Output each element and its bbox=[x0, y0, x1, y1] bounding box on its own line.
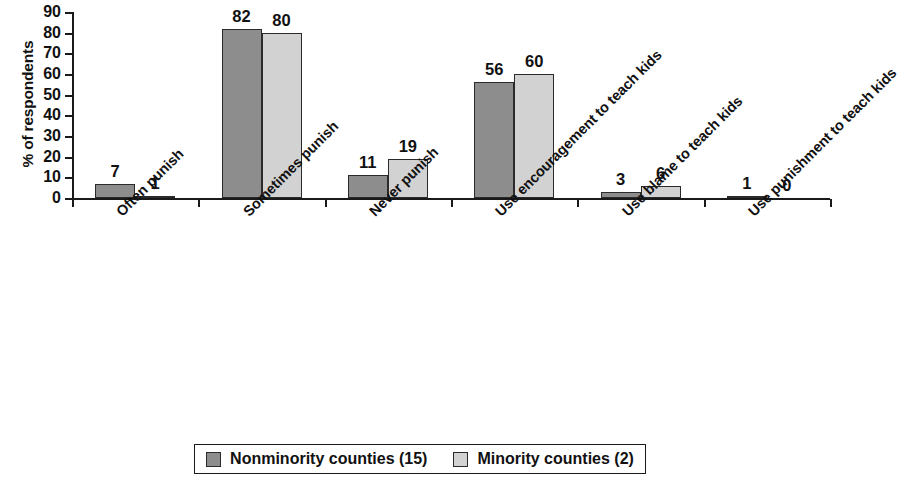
plot-area: 0102030405060708090 718280111956603610 bbox=[72, 12, 830, 198]
y-axis-tick bbox=[65, 177, 72, 179]
legend-swatch-icon bbox=[206, 452, 221, 467]
y-axis-tick bbox=[65, 12, 72, 14]
x-axis-tick bbox=[451, 199, 453, 207]
x-axis-tick bbox=[704, 199, 706, 207]
x-axis-tick bbox=[198, 199, 200, 207]
y-tick-label: 90 bbox=[43, 4, 61, 20]
bar-value-label: 7 bbox=[111, 163, 120, 180]
y-axis-tick bbox=[65, 115, 72, 117]
y-tick-label: 20 bbox=[43, 149, 61, 165]
y-tick-label: 30 bbox=[43, 128, 61, 144]
legend-swatch-icon bbox=[453, 452, 468, 467]
y-axis-tick bbox=[65, 198, 72, 200]
bar-value-label: 3 bbox=[616, 171, 625, 188]
legend-item: Minority counties (2) bbox=[453, 451, 633, 467]
x-axis-tick bbox=[72, 199, 74, 207]
y-axis-line bbox=[72, 12, 74, 199]
y-tick-label: 60 bbox=[43, 66, 61, 82]
x-axis-tick bbox=[830, 199, 832, 207]
bar-value-label: 1 bbox=[742, 175, 751, 192]
y-axis-tick bbox=[65, 74, 72, 76]
bar-value-label: 11 bbox=[359, 154, 376, 171]
bar bbox=[222, 29, 262, 198]
y-tick-label: 10 bbox=[43, 169, 61, 185]
legend-item: Nonminority counties (15) bbox=[206, 451, 427, 467]
bar bbox=[474, 82, 514, 198]
bar-value-label: 60 bbox=[525, 53, 543, 70]
y-tick-label: 80 bbox=[43, 25, 61, 41]
y-axis-tick bbox=[65, 53, 72, 55]
y-axis-tick bbox=[65, 136, 72, 138]
y-axis-tick bbox=[65, 157, 72, 159]
y-tick-label: 40 bbox=[43, 107, 61, 123]
bar-value-label: 56 bbox=[485, 61, 503, 78]
y-tick-label: 0 bbox=[52, 190, 61, 206]
x-axis-tick bbox=[577, 199, 579, 207]
y-axis-tick bbox=[65, 33, 72, 35]
legend-item-label: Nonminority counties (15) bbox=[230, 451, 427, 467]
y-tick-label: 70 bbox=[43, 45, 61, 61]
bar-value-label: 80 bbox=[272, 12, 290, 29]
legend-item-label: Minority counties (2) bbox=[477, 451, 633, 467]
bar-value-label: 82 bbox=[232, 8, 250, 25]
y-axis-title: % of respondents bbox=[19, 14, 37, 194]
y-axis-tick bbox=[65, 95, 72, 97]
bar-value-label: 19 bbox=[399, 138, 417, 155]
x-axis-tick bbox=[325, 199, 327, 207]
legend: Nonminority counties (15) Minority count… bbox=[194, 444, 646, 474]
y-tick-label: 50 bbox=[43, 87, 61, 103]
